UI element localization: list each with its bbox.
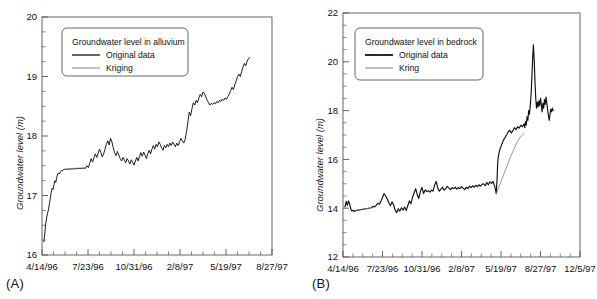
legend-entry-label: Kring — [399, 63, 419, 73]
y-tick-label: 12 — [327, 251, 338, 262]
x-tick-label: 8/27/97 — [525, 263, 557, 274]
y-tick-label: 16 — [26, 249, 37, 260]
y-tick-label: 19 — [26, 71, 37, 82]
series-line — [44, 57, 250, 241]
panel-a-tag: (A) — [6, 276, 24, 291]
legend-title: Groundwater level in bedrock — [365, 37, 477, 47]
x-tick-label: 8/27/97 — [256, 261, 288, 272]
panel-a: 16171819204/14/967/23/9610/31/962/8/975/… — [0, 0, 300, 299]
y-tick-label: 20 — [26, 11, 37, 22]
panel-a-y-axis-label: Groundwater level (m) — [14, 116, 25, 210]
x-tick-label: 4/14/96 — [26, 261, 58, 272]
x-tick-label: 7/23/96 — [367, 263, 399, 274]
y-tick-label: 20 — [327, 56, 338, 67]
x-tick-label: 2/8/97 — [448, 263, 474, 274]
legend-entry-label: Kriging — [106, 63, 133, 73]
panel-b: 1214161820224/14/967/23/9610/31/962/8/97… — [300, 0, 597, 299]
y-tick-label: 18 — [327, 105, 338, 116]
y-tick-label: 16 — [327, 154, 338, 165]
x-tick-label: 7/23/96 — [72, 261, 104, 272]
legend-entry-label: Original data — [106, 50, 155, 60]
x-tick-label: 10/31/96 — [404, 263, 441, 274]
y-tick-label: 14 — [327, 203, 338, 214]
y-tick-label: 22 — [327, 7, 338, 18]
y-tick-label: 18 — [26, 130, 37, 141]
panel-b-y-axis-label: Groundwater level (m) — [314, 118, 325, 212]
x-tick-label: 2/8/97 — [167, 261, 193, 272]
x-tick-label: 5/19/97 — [485, 263, 517, 274]
figure-root: 16171819204/14/967/23/9610/31/962/8/975/… — [0, 0, 597, 299]
series-line — [356, 208, 372, 211]
x-tick-label: 5/19/97 — [210, 261, 242, 272]
x-tick-label: 12/5/97 — [564, 263, 596, 274]
panel-a-plot: 16171819204/14/967/23/9610/31/962/8/975/… — [0, 0, 300, 299]
panel-b-plot: 1214161820224/14/967/23/9610/31/962/8/97… — [300, 0, 597, 299]
panel-b-tag: (B) — [312, 276, 330, 291]
x-tick-label: 10/31/96 — [116, 261, 153, 272]
legend-title: Groundwater level in alluvium — [72, 37, 185, 47]
series-line — [496, 134, 524, 194]
y-tick-label: 17 — [26, 190, 37, 201]
x-tick-label: 4/14/96 — [327, 263, 359, 274]
legend-entry-label: Original data — [399, 50, 448, 60]
